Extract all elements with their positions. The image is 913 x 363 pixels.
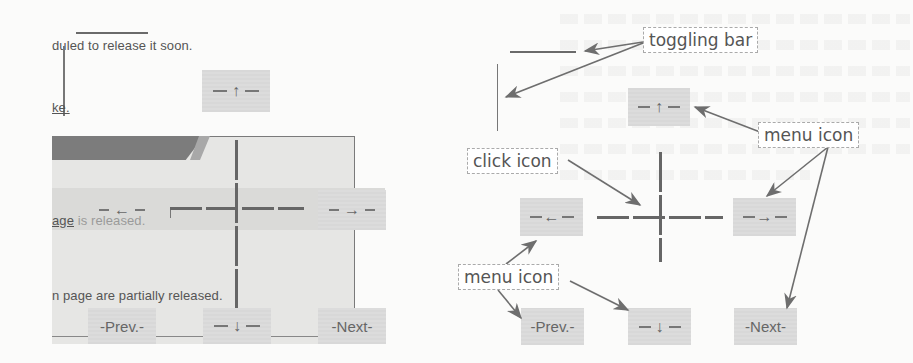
- arrow-left-icon: ←: [544, 209, 560, 225]
- dash-icon: [775, 216, 787, 218]
- arrow-down-icon: ↓: [233, 318, 241, 334]
- dash-icon: [246, 325, 260, 327]
- arrow-up-icon: ↑: [655, 99, 663, 115]
- click-crosshair-vertical[interactable]: [659, 152, 662, 262]
- dash-icon: [213, 90, 227, 92]
- bleed-through-line: [560, 66, 910, 76]
- toggling-bar-horizontal[interactable]: [510, 51, 576, 53]
- click-crosshair-vertical[interactable]: [235, 140, 238, 308]
- prev-label: -Prev.-: [531, 318, 575, 335]
- click-crosshair-horizontal[interactable]: [597, 216, 723, 219]
- menu-down-button[interactable]: ↓: [203, 308, 271, 344]
- dash-icon: [668, 106, 680, 108]
- body-text-line: duled to release it soon.: [52, 38, 193, 53]
- arrow-down-icon: ↓: [656, 319, 664, 335]
- arrow-right-icon: →: [344, 202, 360, 218]
- bleed-through-line: [560, 92, 910, 102]
- bleed-through-line: [560, 170, 810, 180]
- annotation-menu-icon-top: menu icon: [758, 122, 859, 148]
- annotation-click-icon: click icon: [467, 148, 558, 174]
- prev-button[interactable]: -Prev.-: [521, 308, 584, 345]
- menu-up-button[interactable]: ↑: [628, 88, 690, 126]
- next-label: -Next-: [332, 318, 373, 335]
- dash-icon: [245, 90, 259, 92]
- menu-left-button[interactable]: ←: [88, 190, 156, 230]
- menu-left-button[interactable]: ←: [520, 198, 583, 236]
- menu-right-button[interactable]: →: [733, 198, 796, 236]
- arrow-left-icon: ←: [114, 202, 130, 218]
- next-button[interactable]: -Next-: [318, 308, 386, 344]
- toggling-bar-horizontal[interactable]: [76, 32, 148, 34]
- dash-icon: [669, 326, 681, 328]
- screenshot-header-bar: [52, 136, 204, 160]
- menu-up-button[interactable]: ↑: [202, 70, 270, 112]
- bleed-through-line: [560, 14, 910, 24]
- body-link[interactable]: ke.: [52, 100, 70, 115]
- prev-label: -Prev.-: [100, 318, 144, 335]
- next-button[interactable]: -Next-: [734, 308, 797, 345]
- menu-right-button[interactable]: →: [318, 190, 386, 230]
- partially-released-text: n page are partially released.: [52, 288, 223, 303]
- menu-down-button[interactable]: ↓: [628, 308, 691, 345]
- dash-icon: [743, 216, 755, 218]
- prev-button[interactable]: -Prev.-: [88, 308, 156, 344]
- dash-icon: [638, 106, 650, 108]
- annotation-toggling-bar: toggling bar: [643, 27, 758, 53]
- arrow-up-icon: ↑: [232, 83, 240, 99]
- dash-icon: [329, 209, 339, 211]
- dash-icon: [639, 326, 651, 328]
- dash-icon: [562, 216, 574, 218]
- dash-icon: [365, 209, 375, 211]
- annotation-menu-icon-bottom: menu icon: [458, 264, 559, 290]
- toggling-bar-vertical[interactable]: [497, 64, 498, 131]
- next-label: -Next-: [745, 318, 786, 335]
- arrow-right-icon: →: [757, 209, 773, 225]
- dash-icon: [99, 209, 109, 211]
- dash-icon: [214, 325, 228, 327]
- page-link[interactable]: age: [52, 213, 74, 228]
- dash-icon: [135, 209, 145, 211]
- dash-icon: [530, 216, 542, 218]
